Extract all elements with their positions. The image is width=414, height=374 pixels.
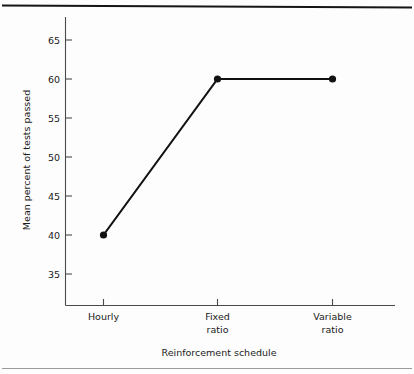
x-tick-label-variable-line2: ratio [322,324,344,335]
data-point-hourly [100,231,107,238]
x-tick-label-fixed-line2: ratio [207,324,229,335]
data-point-variable-ratio [329,75,336,82]
data-series-line [104,79,333,235]
x-tick-label-fixed-line1: Fixed [205,311,230,322]
y-tick-label-35: 35 [48,269,60,280]
y-tick-label-45: 45 [48,191,60,202]
y-axis-ticks [66,40,73,274]
y-tick-label-50: 50 [48,152,60,163]
y-tick-label-65: 65 [48,35,60,46]
x-axis-ticks [104,299,333,306]
y-tick-label-55: 55 [48,113,60,124]
top-rule [2,6,412,8]
figure-container: 65 60 55 50 45 40 35 Hourly Fixed ratio … [0,0,414,374]
y-tick-label-40: 40 [48,230,60,241]
x-axis-title: Reinforcement schedule [161,347,276,358]
y-axis-title: Mean percent of tests passed [21,90,32,230]
data-point-fixed-ratio [214,75,221,82]
x-tick-label-hourly: Hourly [88,311,120,322]
y-tick-label-60: 60 [48,74,60,85]
x-tick-label-variable-line1: Variable [313,311,352,322]
